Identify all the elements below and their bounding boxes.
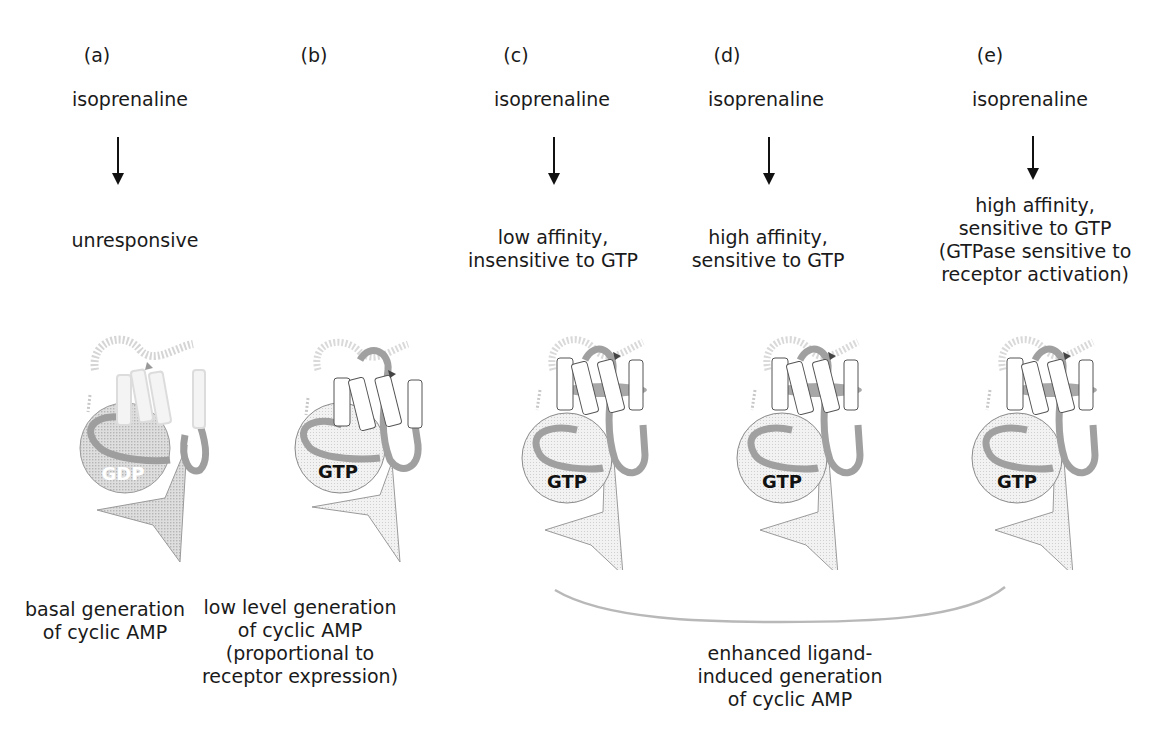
grouped-output-label: enhanced ligand- induced generation of c…: [698, 642, 883, 711]
panel-label-c: (c): [503, 44, 528, 66]
output-label-b: low level generation of cyclic AMP (prop…: [202, 596, 398, 688]
arrow-down-icon: [117, 137, 119, 183]
receptor-active-gtp-illustration: GTP: [700, 330, 900, 570]
arrow-down-icon: [1032, 136, 1034, 178]
panel-label-d: (d): [714, 44, 741, 66]
agonist-label-c: isoprenaline: [494, 88, 610, 111]
panel-label-b: (b): [301, 44, 328, 66]
group-bracket-curve: [545, 575, 1015, 635]
agonist-label-d: isoprenaline: [708, 88, 824, 111]
state-label-c: low affinity, insensitive to GTP: [468, 226, 638, 272]
svg-text:GDP: GDP: [102, 463, 145, 484]
receptor-inactive-gtp-illustration: GTP: [250, 330, 450, 570]
svg-text:GTP: GTP: [762, 471, 802, 492]
agonist-label-e: isoprenaline: [972, 88, 1088, 111]
receptor-inactive-gdp-illustration: GDP: [35, 330, 235, 570]
panel-label-e: (e): [977, 44, 1004, 66]
receptor-active-gtp-illustration: GTP: [485, 330, 685, 570]
svg-text:GTP: GTP: [997, 471, 1037, 492]
state-label-d: high affinity, sensitive to GTP: [692, 226, 845, 272]
agonist-label-a: isoprenaline: [72, 88, 188, 111]
state-label-a: unresponsive: [72, 229, 199, 252]
output-label-a: basal generation of cyclic AMP: [25, 598, 185, 644]
svg-text:GTP: GTP: [318, 461, 358, 482]
receptor-active-gtp-illustration: GTP: [935, 330, 1135, 570]
state-label-e: high affinity, sensitive to GTP (GTPase …: [939, 194, 1132, 286]
panel-label-a: (a): [84, 44, 110, 66]
svg-text:GTP: GTP: [547, 471, 587, 492]
arrow-down-icon: [768, 137, 770, 183]
arrow-down-icon: [553, 137, 555, 183]
